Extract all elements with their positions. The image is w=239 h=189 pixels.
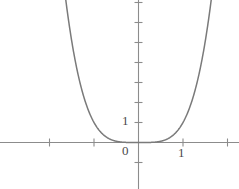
axis-label-origin: 0: [122, 144, 129, 157]
plot-area: [0, 0, 239, 189]
chart-figure: 0 1 1: [0, 0, 239, 189]
y-axis-label-one: 1: [122, 114, 129, 127]
axes: [0, 0, 239, 189]
x-axis-label-one: 1: [178, 146, 185, 159]
